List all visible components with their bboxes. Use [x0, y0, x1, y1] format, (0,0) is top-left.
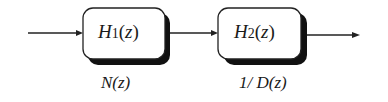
block-name: H: [98, 21, 112, 42]
block-diagram: [0, 0, 388, 102]
block-h1-caption: N(z): [101, 73, 130, 93]
block-h2-label: H2(z): [234, 21, 275, 43]
block-subscript: 1: [112, 26, 119, 41]
block-name: H: [234, 21, 248, 42]
block-h1-label: H1(z): [98, 21, 139, 43]
block-h2-caption: 1/ D(z): [239, 73, 287, 93]
arrowhead-icon: [352, 32, 360, 38]
arrowhead-icon: [211, 30, 218, 36]
block-subscript: 2: [248, 26, 255, 41]
arrowhead-icon: [76, 30, 83, 36]
